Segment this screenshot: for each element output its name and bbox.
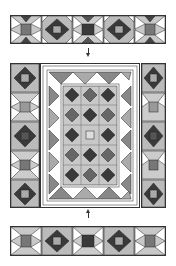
right-side-border bbox=[141, 63, 166, 208]
top-border-strip bbox=[10, 15, 166, 44]
pieced-blocks-row bbox=[11, 227, 165, 255]
pieced-blocks-column bbox=[142, 64, 165, 207]
arrow-down-icon bbox=[86, 53, 90, 57]
arrow-down bbox=[88, 48, 89, 54]
pieced-blocks-column bbox=[11, 64, 39, 207]
bottom-border-strip bbox=[10, 226, 166, 256]
arrow-up-icon bbox=[86, 209, 90, 213]
pieced-blocks-row bbox=[11, 16, 165, 43]
center-panel bbox=[40, 63, 140, 208]
center-panel-art bbox=[41, 64, 139, 207]
left-side-border bbox=[10, 63, 40, 208]
arrow-up bbox=[88, 211, 89, 218]
